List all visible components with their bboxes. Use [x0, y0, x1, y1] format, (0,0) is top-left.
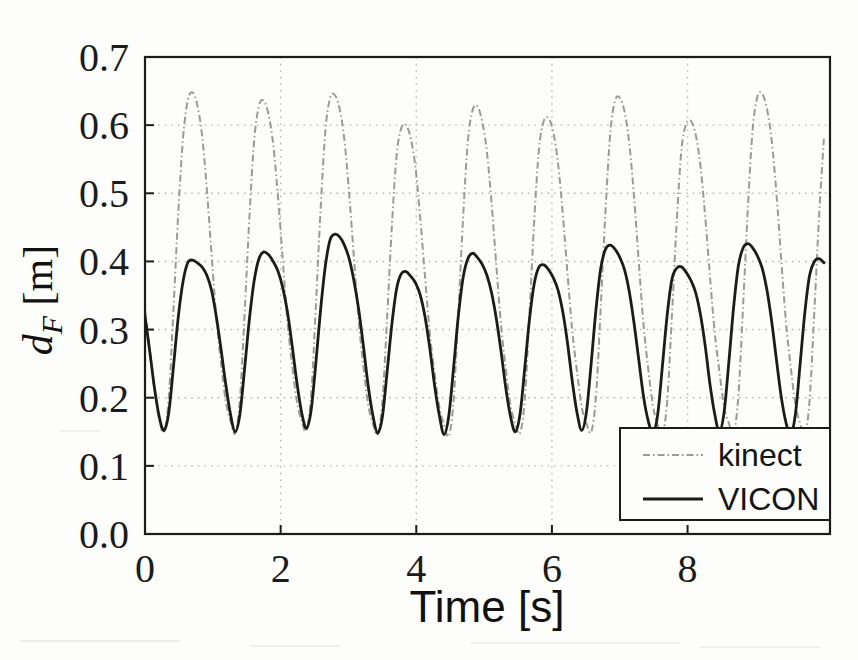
line-chart: 02468 0.00.10.20.30.40.50.60.7 Time [s] … [0, 0, 858, 660]
y-tick-label: 0.0 [79, 512, 129, 557]
x-tick-label: 2 [271, 546, 291, 591]
y-tick-label: 0.1 [79, 444, 129, 489]
y-axis-title-unit: [m] [15, 245, 61, 316]
legend: kinect VICON [620, 428, 830, 520]
y-tick-label: 0.3 [79, 308, 129, 353]
x-axis-title: Time [s] [410, 582, 565, 631]
y-tick-label: 0.7 [79, 35, 129, 80]
legend-label-kinect: kinect [718, 437, 802, 473]
y-axis-title: dF [m] [15, 245, 68, 355]
y-tick-label: 0.2 [79, 376, 129, 421]
figure-container: 02468 0.00.10.20.30.40.50.60.7 Time [s] … [0, 0, 858, 660]
x-tick-label: 0 [135, 546, 155, 591]
y-axis-title-sub: F [35, 315, 68, 335]
y-tick-label: 0.6 [79, 103, 129, 148]
y-axis-title-main: d [15, 333, 61, 355]
legend-label-vicon: VICON [718, 481, 819, 517]
svg-text:dF [m]: dF [m] [15, 245, 68, 355]
x-tick-label: 8 [678, 546, 698, 591]
y-tick-label: 0.4 [79, 239, 129, 284]
y-tick-label: 0.5 [79, 171, 129, 216]
